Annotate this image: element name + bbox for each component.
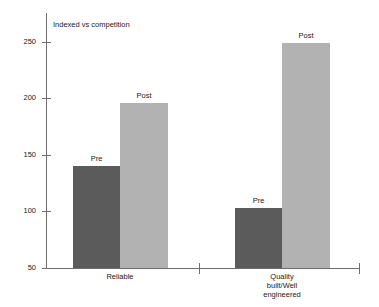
bar-label-quality-pre: Pre xyxy=(235,196,282,205)
bar-label-reliable-pre: Pre xyxy=(73,154,120,163)
category-label-quality-line3: engineered xyxy=(242,290,322,299)
y-tick-mark-250 xyxy=(42,42,51,43)
y-tick-label-250: 250 xyxy=(6,38,36,46)
bar-label-reliable-post: Post xyxy=(120,91,168,100)
category-label-reliable: Reliable xyxy=(80,272,160,281)
y-tick-mark-150 xyxy=(42,155,51,156)
y-tick-label-100: 100 xyxy=(6,207,36,215)
y-tick-label-150: 150 xyxy=(6,151,36,159)
y-axis-line xyxy=(46,13,47,269)
x-tick-mark-end xyxy=(359,263,360,274)
bar-chart: Indexed vs competition 250 200 150 100 5… xyxy=(0,0,379,307)
y-tick-mark-100 xyxy=(42,211,51,212)
x-tick-mark-separator xyxy=(199,263,200,274)
category-label-quality: Quality built/Well engineered xyxy=(242,272,322,299)
chart-title: Indexed vs competition xyxy=(53,20,130,29)
bar-quality-pre xyxy=(235,208,282,268)
bar-quality-post xyxy=(282,43,330,268)
bar-reliable-post xyxy=(120,103,168,268)
bar-reliable-pre xyxy=(73,166,120,268)
bar-label-quality-post: Post xyxy=(282,31,330,40)
y-tick-label-50: 50 xyxy=(6,264,36,272)
category-label-quality-line1: Quality xyxy=(242,272,322,281)
x-axis-line xyxy=(46,268,360,269)
y-tick-mark-200 xyxy=(42,98,51,99)
category-label-reliable-line1: Reliable xyxy=(80,272,160,281)
category-label-quality-line2: built/Well xyxy=(242,281,322,290)
y-tick-label-200: 200 xyxy=(6,94,36,102)
